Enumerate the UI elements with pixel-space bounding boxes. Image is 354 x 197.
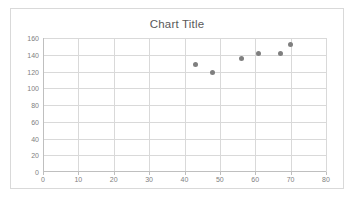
x-axis-tick-label: 50: [216, 176, 224, 183]
data-point[interactable]: [278, 51, 283, 56]
x-axis-tick-mark: [255, 172, 256, 175]
y-axis-tick-label: 80: [31, 102, 39, 109]
x-axis-tick-label: 40: [181, 176, 189, 183]
data-point[interactable]: [288, 42, 293, 47]
x-axis-tick-label: 80: [322, 176, 330, 183]
y-axis-tick-label: 0: [35, 169, 39, 176]
x-axis-tick-mark: [185, 172, 186, 175]
gridline-vertical: [220, 38, 221, 172]
y-axis-tick-label: 120: [27, 68, 39, 75]
x-axis-tick-label: 10: [74, 176, 82, 183]
data-point[interactable]: [210, 70, 215, 75]
gridline-vertical: [185, 38, 186, 172]
gridline-vertical: [114, 38, 115, 172]
y-axis-tick-label: 20: [31, 152, 39, 159]
x-axis-tick-label: 30: [145, 176, 153, 183]
x-axis-tick-label: 60: [251, 176, 259, 183]
x-axis-tick-mark: [220, 172, 221, 175]
y-axis-tick-label: 160: [27, 35, 39, 42]
x-axis-tick-label: 0: [41, 176, 45, 183]
y-axis-tick-label: 100: [27, 85, 39, 92]
screenshot-root: Chart Title 020406080100120140160 010203…: [0, 0, 354, 197]
y-axis-tick-label: 140: [27, 51, 39, 58]
gridline-vertical: [78, 38, 79, 172]
x-axis-tick-mark: [149, 172, 150, 175]
data-point[interactable]: [256, 51, 261, 56]
x-axis-tick-label: 70: [287, 176, 295, 183]
x-axis-tick-mark: [114, 172, 115, 175]
data-point[interactable]: [193, 62, 198, 67]
gridline-vertical: [326, 38, 327, 172]
gridline-vertical: [255, 38, 256, 172]
y-axis-tick-label: 60: [31, 118, 39, 125]
data-point[interactable]: [239, 56, 244, 61]
x-axis-tick-mark: [43, 172, 44, 175]
chart-object-frame[interactable]: Chart Title 020406080100120140160 010203…: [10, 8, 344, 189]
x-axis-tick-label: 20: [110, 176, 118, 183]
gridline-vertical: [149, 38, 150, 172]
chart-title[interactable]: Chart Title: [11, 18, 343, 30]
plot-area[interactable]: 020406080100120140160 01020304050607080: [43, 38, 326, 172]
gridline-vertical: [291, 38, 292, 172]
x-axis-tick-mark: [78, 172, 79, 175]
y-axis-tick-label: 40: [31, 135, 39, 142]
x-axis-tick-mark: [326, 172, 327, 175]
x-axis-tick-mark: [291, 172, 292, 175]
y-axis-line: [43, 38, 44, 172]
